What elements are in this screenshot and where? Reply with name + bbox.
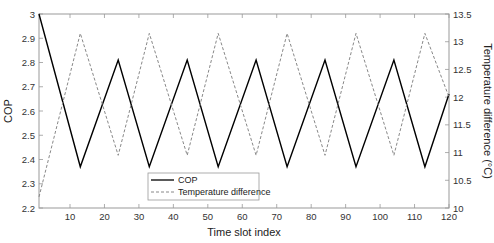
- left-y-tick-label: 2.5: [22, 130, 35, 141]
- right-y-tick-label: 12: [453, 92, 464, 103]
- right-y-tick-label: 11.5: [453, 119, 471, 130]
- left-y-axis-title: COP: [2, 99, 14, 123]
- dual-axis-line-chart: 102030405060708090100110120 2.22.32.42.5…: [0, 0, 494, 243]
- legend-label-cop: COP: [178, 175, 198, 185]
- x-tick-label: 100: [372, 211, 388, 222]
- left-y-tick-label: 2.7: [22, 81, 35, 92]
- right-y-tick-label: 13: [453, 36, 464, 47]
- x-tick-label: 80: [306, 211, 317, 222]
- left-y-tick-label: 2.4: [22, 154, 35, 165]
- left-y-tick-label: 2.2: [22, 203, 35, 214]
- right-y-tick-label: 10: [453, 203, 464, 214]
- x-tick-label: 90: [340, 211, 351, 222]
- left-y-tick-label: 2.9: [22, 33, 35, 44]
- right-y-tick-label: 12.5: [453, 64, 472, 75]
- left-y-tick-label: 2.3: [22, 178, 35, 189]
- x-tick-label: 60: [237, 211, 248, 222]
- x-tick-label: 40: [168, 211, 179, 222]
- x-tick-label: 20: [99, 211, 110, 222]
- x-tick-label: 10: [65, 211, 76, 222]
- right-y-tick-label: 13.5: [453, 9, 472, 20]
- x-tick-label: 30: [134, 211, 145, 222]
- legend-label-temperature: Temperature difference: [178, 187, 270, 197]
- x-tick-label: 50: [203, 211, 214, 222]
- left-y-tick-label: 2.8: [22, 57, 35, 68]
- x-tick-label: 110: [407, 211, 422, 222]
- right-y-tick-label: 10.5: [453, 175, 472, 186]
- left-y-tick-label: 3: [30, 9, 35, 20]
- left-y-tick-label: 2.6: [22, 106, 35, 117]
- right-y-axis-title: Temperature difference (°C): [482, 43, 494, 179]
- x-axis-title: Time slot index: [207, 226, 281, 238]
- legend: COP Temperature difference: [148, 173, 270, 200]
- right-y-tick-label: 11: [453, 147, 463, 158]
- x-tick-label: 70: [271, 211, 282, 222]
